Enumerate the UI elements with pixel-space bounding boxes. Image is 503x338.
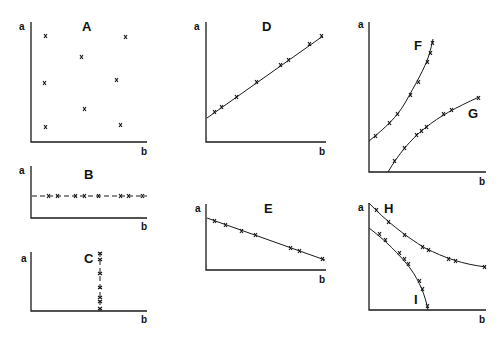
panel-c: a b C (21, 251, 147, 325)
panel-label: C (84, 251, 94, 266)
y-axis-label: a (19, 165, 25, 176)
panel-fg: a b F G (358, 19, 486, 187)
x-axis-label: b (319, 146, 325, 157)
scatter-markers (43, 34, 127, 129)
panel-a: a b A (19, 19, 147, 157)
panel-hi: a b H I (358, 201, 486, 325)
x-axis-label: b (319, 274, 325, 285)
y-axis-label: a (195, 203, 201, 214)
panel-label: E (264, 201, 273, 216)
panel-label-f: F (414, 38, 422, 53)
panel-label: B (84, 167, 93, 182)
panel-label-g: G (468, 106, 478, 121)
x-axis-label: b (479, 176, 485, 187)
x-axis-label: b (141, 146, 147, 157)
diagram-canvas: a b A a b B (0, 0, 503, 338)
panel-b: a b B (19, 165, 147, 232)
y-axis-label: a (358, 19, 364, 30)
curve-i (369, 228, 428, 310)
panel-e: a b E (195, 201, 326, 285)
panel-label-h: H (384, 201, 393, 216)
y-axis-label: a (358, 202, 364, 213)
x-axis-label: b (479, 314, 485, 325)
curve-markers (375, 208, 486, 308)
panel-label: A (82, 19, 92, 34)
curve-f (369, 39, 433, 141)
y-axis-label: a (194, 21, 200, 32)
panel-d: a b D (194, 19, 326, 157)
panel-label: D (262, 19, 271, 34)
x-axis-label: b (141, 314, 147, 325)
y-axis-label: a (19, 21, 25, 32)
panel-label-i: I (414, 292, 418, 307)
y-axis-label: a (21, 253, 27, 264)
x-axis-label: b (141, 221, 147, 232)
